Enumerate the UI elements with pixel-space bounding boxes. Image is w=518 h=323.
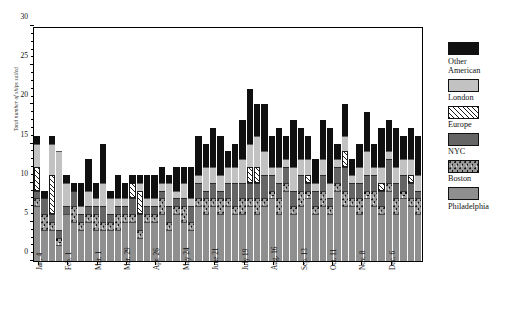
bar-segment xyxy=(232,167,238,183)
bar-segment xyxy=(93,198,99,206)
bar-segment xyxy=(173,214,179,261)
bar-column xyxy=(166,28,173,261)
legend-swatch xyxy=(448,133,479,146)
bar-segment xyxy=(137,191,143,215)
legend-swatch xyxy=(448,42,479,55)
bar-column xyxy=(41,28,48,261)
bar-column xyxy=(247,28,254,261)
legend-item[interactable]: Boston xyxy=(448,160,518,184)
bar-segment xyxy=(41,191,47,199)
bar-column xyxy=(151,28,158,261)
x-axis-tick-label: Mar. 1 xyxy=(93,251,102,270)
legend-item[interactable]: London xyxy=(448,79,518,103)
bar-segment xyxy=(203,214,209,261)
y-axis-minor-tick xyxy=(31,150,34,151)
bar-segment xyxy=(356,183,362,199)
y-axis-minor-tick xyxy=(31,80,34,81)
bar-segment xyxy=(107,222,113,230)
bar-column xyxy=(269,28,276,261)
bar-segment xyxy=(159,183,165,191)
bar-segment xyxy=(41,214,47,230)
x-axis-tick-label: July 19 xyxy=(240,249,249,270)
bar-segment xyxy=(312,183,318,191)
bar-segment xyxy=(151,214,157,222)
legend-swatch xyxy=(448,79,479,92)
bar-segment xyxy=(137,230,143,238)
legend-item[interactable]: NYC xyxy=(448,133,518,157)
bar-segment xyxy=(144,206,150,214)
legend-label: NYC xyxy=(448,147,518,157)
bar-segment xyxy=(100,144,106,183)
bar-column xyxy=(393,28,400,261)
legend-item[interactable]: Europe xyxy=(448,106,518,130)
bar-segment xyxy=(56,245,62,261)
bar-segment xyxy=(254,183,260,199)
y-axis-tick-label: 20 xyxy=(20,91,28,100)
bar-segment xyxy=(415,214,421,261)
bar-segment xyxy=(34,136,40,144)
bar-segment xyxy=(247,198,253,206)
bar-segment xyxy=(159,198,165,214)
bar-segment xyxy=(34,191,40,199)
bar-segment xyxy=(400,198,406,261)
bar-segment xyxy=(320,175,326,191)
bar-segment xyxy=(49,230,55,261)
bar-segment xyxy=(181,167,187,183)
bar-segment xyxy=(166,183,172,207)
bar-segment xyxy=(203,144,209,168)
y-axis-minor-tick xyxy=(31,197,34,198)
bar-segment xyxy=(181,183,187,199)
x-axis-tick-label: Sep. 13 xyxy=(299,248,308,270)
bar-segment xyxy=(56,230,62,238)
x-axis-tick-label: Dec. 6 xyxy=(387,251,396,270)
bar-segment xyxy=(78,214,84,222)
bar-column xyxy=(173,28,180,261)
bar-segment xyxy=(400,159,406,175)
bar-segment xyxy=(49,144,55,175)
bar-segment xyxy=(56,238,62,246)
bar-segment xyxy=(78,183,84,207)
bar-segment xyxy=(320,191,326,207)
bar-segment xyxy=(312,191,318,207)
bar-segment xyxy=(144,198,150,206)
bar-segment xyxy=(261,175,267,199)
legend-swatch xyxy=(448,160,479,173)
bar-segment xyxy=(217,175,223,191)
bar-segment xyxy=(408,159,414,175)
bar-column xyxy=(400,28,407,261)
bar-segment xyxy=(276,183,282,199)
bar-segment xyxy=(210,183,216,199)
y-axis-major-tick xyxy=(30,143,35,144)
bar-column xyxy=(312,28,319,261)
y-axis-tick-label: 15 xyxy=(20,130,28,139)
bar-segment xyxy=(290,191,296,207)
bar-segment xyxy=(195,206,201,261)
bar-segment xyxy=(378,167,384,183)
x-axis-tick-label: Feb. 1 xyxy=(64,252,73,270)
y-axis-major-tick xyxy=(30,25,35,26)
x-axis-tick-label: Aug. 16 xyxy=(270,246,279,270)
legend-item[interactable]: Philadelphia xyxy=(448,187,518,211)
bar-segment xyxy=(151,198,157,206)
bar-segment xyxy=(254,167,260,183)
bar-segment xyxy=(100,222,106,230)
bar-segment xyxy=(415,198,421,214)
bar-segment xyxy=(129,183,135,199)
bar-segment xyxy=(78,206,84,214)
bar-segment xyxy=(386,183,392,191)
y-axis-minor-tick xyxy=(31,229,34,230)
y-axis-minor-tick xyxy=(31,166,34,167)
bar-column xyxy=(210,28,217,261)
y-axis-minor-tick xyxy=(31,135,34,136)
bar-segment xyxy=(356,198,362,214)
bar-segment xyxy=(371,191,377,207)
bar-segment xyxy=(342,136,348,152)
bar-segment xyxy=(85,191,91,207)
bar-segment xyxy=(349,159,355,175)
legend-item[interactable]: OtherAmerican xyxy=(448,42,518,76)
bar-column xyxy=(107,28,114,261)
y-axis-minor-tick xyxy=(31,49,34,50)
bar-segment xyxy=(393,198,399,214)
bar-segment xyxy=(378,191,384,207)
bar-segment xyxy=(49,214,55,222)
